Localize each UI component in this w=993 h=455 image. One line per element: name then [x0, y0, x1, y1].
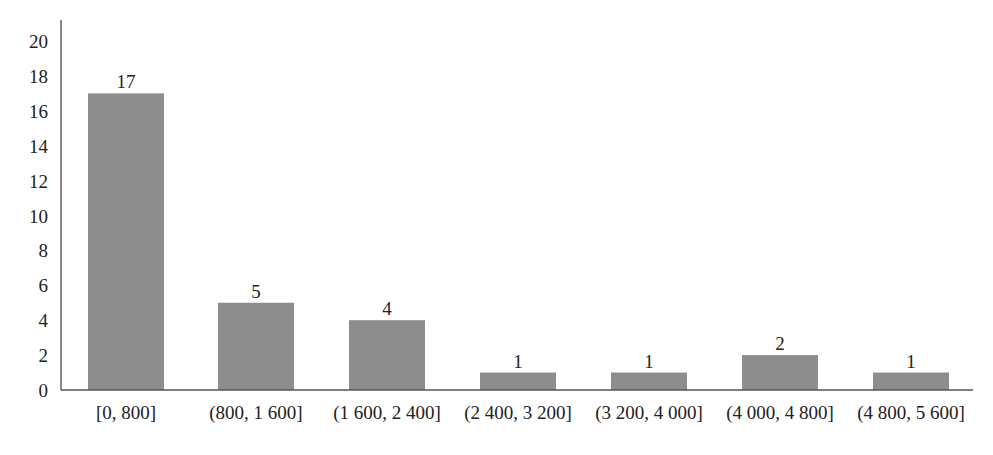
category-label: (1 600, 2 400] — [333, 402, 441, 424]
y-tick-label: 16 — [29, 101, 48, 122]
bar — [611, 373, 687, 390]
y-tick-label: 6 — [39, 275, 49, 296]
bar-value-label: 1 — [513, 351, 523, 372]
y-axis-ticks: 02468101214161820 — [29, 31, 49, 401]
category-label: (800, 1 600] — [209, 402, 302, 424]
bar-value-label: 1 — [644, 351, 654, 372]
bar-value-label: 17 — [117, 71, 136, 92]
bar — [742, 355, 818, 390]
bars — [88, 93, 949, 390]
y-tick-label: 10 — [29, 206, 48, 227]
bar-chart: 02468101214161820 17541121 [0, 800](800,… — [0, 0, 993, 455]
category-label: (3 200, 4 000] — [595, 402, 703, 424]
category-labels: [0, 800](800, 1 600](1 600, 2 400](2 400… — [96, 402, 965, 424]
y-tick-label: 8 — [39, 240, 49, 261]
bar-value-label: 5 — [251, 281, 261, 302]
y-tick-label: 18 — [29, 66, 48, 87]
y-tick-label: 20 — [29, 31, 48, 52]
y-tick-label: 14 — [29, 136, 49, 157]
bar-value-label: 1 — [906, 351, 916, 372]
category-label: (4 800, 5 600] — [857, 402, 965, 424]
y-tick-label: 2 — [39, 345, 49, 366]
category-label: [0, 800] — [96, 402, 156, 423]
bar — [349, 320, 425, 390]
bar-value-label: 2 — [775, 333, 785, 354]
y-tick-label: 0 — [39, 380, 49, 401]
bar — [88, 93, 164, 390]
category-label: (2 400, 3 200] — [464, 402, 572, 424]
bar-value-label: 4 — [382, 298, 392, 319]
bar — [873, 373, 949, 390]
y-tick-label: 4 — [39, 310, 49, 331]
y-tick-label: 12 — [29, 171, 48, 192]
bar — [218, 303, 294, 390]
category-label: (4 000, 4 800] — [726, 402, 834, 424]
bar — [480, 373, 556, 390]
